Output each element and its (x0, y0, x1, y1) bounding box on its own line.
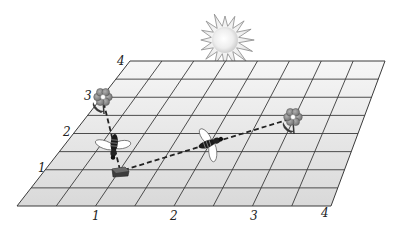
flower-center (291, 115, 296, 120)
x-label-1: 1 (92, 209, 100, 223)
x-label-4: 4 (320, 206, 329, 220)
sun-core (212, 27, 238, 53)
bee-stripe (111, 146, 117, 147)
x-label-2: 2 (169, 209, 178, 223)
y-label-2: 2 (62, 125, 71, 139)
x-axis-labels: 1 2 3 4 (92, 206, 329, 223)
y-label-4: 4 (116, 54, 125, 68)
y-label-1: 1 (38, 161, 46, 175)
beehive-icon (112, 167, 129, 177)
flower-center (101, 95, 106, 100)
bee-grid-diagram: 1 2 3 4 1 2 3 4 (0, 0, 403, 227)
bee-stripe (111, 140, 117, 141)
x-label-3: 3 (250, 209, 258, 223)
y-label-3: 3 (84, 89, 92, 103)
bee-stripe (111, 143, 117, 144)
